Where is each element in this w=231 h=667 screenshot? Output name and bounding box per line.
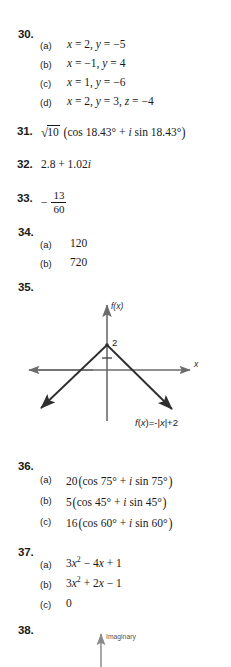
answer-number-32: 32.	[17, 158, 32, 170]
answer-36-part-b-value: 5(cos 45° + i sin 45°)	[66, 493, 167, 510]
vertex-value-label: 2	[112, 337, 117, 348]
graph-left-branch	[41, 345, 107, 408]
fraction-denominator: 60	[51, 203, 66, 216]
function-equation-label: f(x)=-|x|+2	[135, 417, 178, 428]
answer-number-30: 30.	[18, 28, 33, 40]
answer-37-part-b-value: 3x2 + 2x − 1	[66, 577, 122, 589]
minus-sign: −	[41, 196, 48, 208]
answer-number-31: 31.	[17, 125, 32, 137]
answer-34-part-a-label: (a)	[40, 239, 52, 250]
square-root-icon: √10	[41, 124, 60, 140]
answer-32-value: 2.8 + 1.02i	[41, 158, 91, 170]
answer-number-33: 33.	[17, 192, 32, 204]
answer-number-37: 37.	[18, 546, 33, 558]
answer-37-part-a-label: (a)	[40, 559, 52, 570]
answer-30-part-c-value: x = 1, y = −6	[67, 76, 125, 88]
answer-number-35: 35.	[18, 281, 33, 293]
answer-34-part-a-value: 120	[70, 237, 87, 249]
answer-37-part-c-label: (c)	[40, 599, 51, 610]
answer-37-part-b-label: (b)	[40, 579, 52, 590]
answer-36-part-b-label: (b)	[40, 495, 52, 506]
vertex-point	[105, 343, 109, 347]
answer-30-part-b-value: x = −1, y = 4	[67, 57, 125, 69]
answer-36-part-c-label: (c)	[40, 516, 51, 527]
graph-right-branch	[107, 345, 172, 409]
answer-34-part-b-value: 720	[70, 256, 87, 268]
answer-30-part-b-label: (b)	[40, 59, 52, 70]
answer-37-part-c-value: 0	[66, 597, 72, 609]
answer-30-part-a-label: (a)	[40, 40, 52, 51]
answer-number-34: 34.	[18, 226, 33, 238]
x-axis-label: x	[193, 359, 199, 369]
absolute-value-graph-svg: f(x) x 2 f(x)=-|x|+2	[18, 293, 223, 433]
answer-34-part-b-label: (b)	[40, 258, 52, 269]
fraction-numerator: 13	[51, 189, 66, 203]
answer-30-part-d-label: (d)	[40, 97, 52, 108]
answer-key-page: 30. (a) x = 2, y = −5 (b) x = −1, y = 4 …	[0, 0, 231, 667]
answer-37-part-a-value: 3x2 − 4x + 1	[66, 557, 122, 569]
fraction-13-60: 13 60	[51, 189, 66, 216]
answer-30-part-a-value: x = 2, y = −5	[67, 38, 125, 50]
answer-33-value: − 13 60	[41, 190, 67, 217]
figure-complex-plane-graph: Imaginary	[90, 628, 231, 667]
y-axis-label: f(x)	[111, 301, 123, 311]
answer-36-part-a-value: 20(cos 75° + i sin 75°)	[66, 472, 173, 489]
complex-plane-graph-svg: Imaginary	[90, 628, 231, 667]
answer-number-38: 38.	[18, 624, 33, 636]
answer-36-part-a-label: (a)	[40, 474, 52, 485]
answer-30-part-c-label: (c)	[40, 78, 51, 89]
answer-30-part-d-value: x = 2, y = 3, z = −4	[67, 95, 154, 107]
answer-number-36: 36.	[18, 460, 33, 472]
imaginary-axis-label: Imaginary	[106, 633, 136, 641]
answer-31-value: √10 (cos 18.43° + i sin 18.43°)	[41, 123, 186, 140]
figure-absolute-value-graph: f(x) x 2 f(x)=-|x|+2	[18, 293, 223, 433]
answer-36-part-c-value: 16(cos 60° + i sin 60°)	[66, 514, 173, 531]
